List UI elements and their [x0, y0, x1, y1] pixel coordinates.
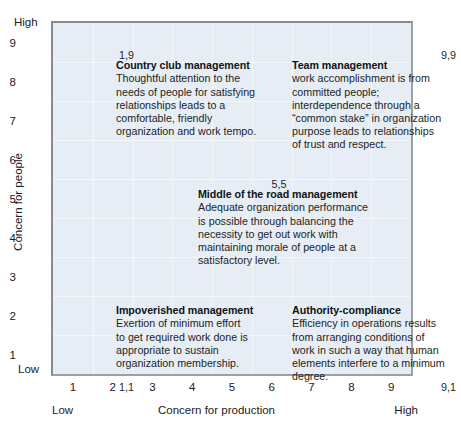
x-tick-3: 3 — [140, 381, 164, 393]
y-axis-low-label: Low — [18, 363, 39, 375]
quadrant-middle-of-the-road-management: Middle of the road management Adequate o… — [198, 188, 383, 267]
gridline-vertical — [93, 23, 94, 374]
quadrant-title-team: Team management — [292, 59, 461, 72]
quadrant-impoverished-management: Impoverished management Exertion of mini… — [116, 304, 288, 370]
y-tick-5: 5 — [0, 193, 16, 205]
x-tick-6: 6 — [260, 381, 284, 393]
x-tick-1: 1 — [61, 381, 85, 393]
quadrant-title-authority-compliance: Authority-compliance — [292, 304, 461, 317]
quadrant-body-country-club: Thoughtful attention to the needs of peo… — [116, 72, 288, 138]
quadrant-body-impoverished: Exertion of minimum effort to get requir… — [116, 317, 288, 370]
x-tick-5: 5 — [220, 381, 244, 393]
quadrant-body-team: work accomplishment is from committed pe… — [292, 72, 461, 151]
gridline-horizontal — [53, 179, 411, 180]
gridline-horizontal — [53, 296, 411, 297]
y-tick-7: 7 — [0, 115, 16, 127]
coordinate-label-1-1: 1,1 — [119, 381, 134, 393]
plot-area: 1,9 9,9 5,5 1,1 9,1 Country club managem… — [51, 21, 413, 376]
y-tick-9: 9 — [0, 37, 16, 49]
quadrant-body-authority-compliance: Efficiency in operations results from ar… — [292, 317, 461, 383]
x-axis-title: Concern for production — [0, 404, 433, 416]
quadrant-authority-compliance: Authority-compliance Efficiency in opera… — [292, 304, 461, 383]
y-tick-1: 1 — [0, 349, 16, 361]
y-tick-4: 4 — [0, 232, 16, 244]
y-tick-8: 8 — [0, 76, 16, 88]
quadrant-team-management: Team management work accomplishment is f… — [292, 59, 461, 152]
quadrant-title-middle-of-road: Middle of the road management — [198, 188, 383, 201]
x-axis-high-label: High — [394, 404, 418, 416]
y-axis-high-label: High — [14, 16, 38, 28]
quadrant-country-club-management: Country club management Thoughtful atten… — [116, 59, 288, 138]
y-tick-2: 2 — [0, 310, 16, 322]
quadrant-title-country-club: Country club management — [116, 59, 288, 72]
x-tick-4: 4 — [180, 381, 204, 393]
quadrant-body-middle-of-road: Adequate organization performance is pos… — [198, 201, 383, 267]
y-tick-6: 6 — [0, 154, 16, 166]
quadrant-title-impoverished: Impoverished management — [116, 304, 288, 317]
y-tick-3: 3 — [0, 271, 16, 283]
